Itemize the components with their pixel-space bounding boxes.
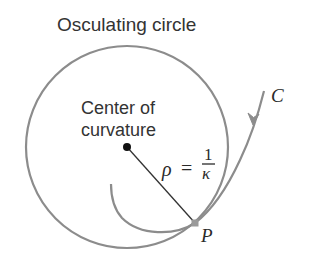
curve-label: C (271, 85, 284, 106)
diagram-title: Osculating circle (57, 14, 196, 35)
point-p-marker (192, 220, 199, 227)
center-label-line1: Center of (81, 98, 156, 118)
center-of-curvature-dot (123, 143, 131, 151)
direction-arrow-icon (248, 113, 259, 125)
diagram-svg: Osculating circle Center of curvature ρ … (0, 0, 311, 265)
equals-sign: = (181, 157, 192, 179)
fraction-denominator: κ (202, 164, 211, 183)
center-label-line2: curvature (81, 120, 156, 140)
osculating-circle-diagram: Osculating circle Center of curvature ρ … (0, 0, 311, 265)
fraction-numerator: 1 (204, 145, 213, 164)
point-label: P (200, 225, 213, 246)
radius-symbol: ρ (161, 158, 172, 181)
